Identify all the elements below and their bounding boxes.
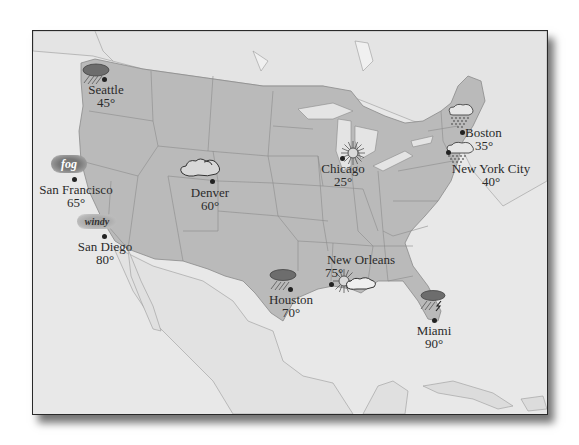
city-temp: 70° [263, 306, 319, 319]
city-label: Denver 60° [185, 186, 235, 212]
city-label: Houston 70° [263, 293, 319, 319]
city-label: San Francisco 65° [35, 183, 117, 209]
city-temp: 65° [35, 196, 117, 209]
city-temp: 80° [75, 253, 135, 266]
city-temp: 60° [185, 199, 235, 212]
city-label: San Diego 80° [75, 240, 135, 266]
weather-map: Seattle 45° fog San Francisco 65° windy … [32, 30, 548, 415]
city-dot [329, 282, 334, 287]
city-temp: 45° [81, 96, 131, 109]
city-label: Miami 90° [409, 324, 459, 350]
cloud-icon [178, 157, 222, 179]
city-dot [210, 179, 215, 184]
city-label: Chicago 25° [315, 162, 371, 188]
city-label: Seattle 45° [81, 83, 131, 109]
city-temp: 25° [315, 175, 371, 188]
city-label: New Orleans 75° [319, 253, 403, 279]
city-temp: 90° [409, 337, 459, 350]
city-temp: 40° [446, 175, 536, 188]
wind-icon: windy [77, 214, 117, 229]
city-dot [446, 150, 451, 155]
thunderstorm-icon [419, 290, 447, 312]
city-label: New York City 40° [446, 162, 536, 188]
fog-icon: fog [51, 155, 87, 173]
city-temp: 75° [319, 266, 403, 279]
